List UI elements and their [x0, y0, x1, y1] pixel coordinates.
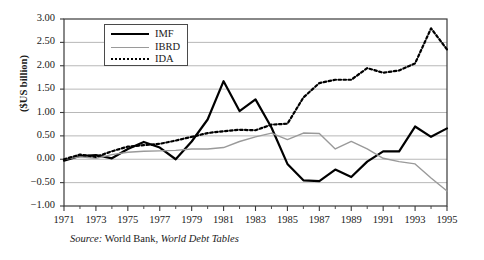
- y-axis-tick-label: 1.00: [13, 107, 55, 117]
- legend-label-ibrd: IBRD: [155, 41, 180, 53]
- legend-item-ida: IDA: [111, 53, 185, 65]
- source-caption: Source: World Bank, World Debt Tables: [70, 233, 239, 244]
- y-axis-tick-label: −0.50: [13, 177, 55, 187]
- y-axis-tick-label: 3.00: [13, 13, 55, 23]
- y-axis-tick-label: −1.00: [13, 200, 55, 210]
- y-axis-tick-label: 1.50: [13, 83, 55, 93]
- y-axis-tick-label: 2.00: [13, 60, 55, 70]
- chart-figure: ($US billion) 3.002.502.001.501.000.500.…: [0, 0, 484, 260]
- chart-legend: IMF IBRD IDA: [104, 24, 188, 66]
- y-axis-tick-label: 0.00: [13, 153, 55, 163]
- y-axis-tick-label: 2.50: [13, 36, 55, 46]
- source-middle: World Bank,: [102, 233, 160, 244]
- source-prefix: Source:: [70, 233, 102, 244]
- x-axis-tick-label: 1995: [427, 214, 467, 225]
- legend-label-ida: IDA: [155, 53, 174, 65]
- legend-swatch-ida-icon: [111, 58, 149, 60]
- legend-swatch-imf-icon: [111, 33, 149, 35]
- legend-swatch-ibrd-icon: [111, 47, 149, 48]
- legend-item-ibrd: IBRD: [111, 41, 185, 53]
- legend-item-imf: IMF: [111, 28, 185, 40]
- legend-label-imf: IMF: [155, 28, 174, 40]
- source-title: World Debt Tables: [161, 233, 239, 244]
- y-axis-tick-label: 0.50: [13, 130, 55, 140]
